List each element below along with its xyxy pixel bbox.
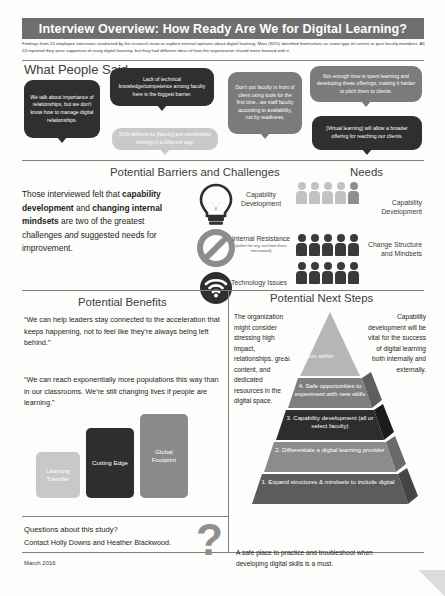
- divider-bottom-top: [22, 290, 424, 291]
- quote-bubble-4: Don't put faculty in front of client usi…: [228, 72, 302, 134]
- quote-bubble-6: [Virtual learning] will allow a broader …: [312, 116, 422, 150]
- divider-middle-top: [22, 160, 424, 161]
- quote-bubble-1-text: We talk about importance of relationship…: [30, 94, 94, 125]
- divider-vertical: [228, 290, 229, 552]
- section-title-needs: Needs: [350, 166, 383, 178]
- section-title-benefits: Potential Benefits: [78, 296, 167, 308]
- quote-bubble-5: Not enough time is spent learning and de…: [310, 66, 422, 102]
- quote-bubble-5-text: Not enough time is spent learning and de…: [316, 73, 416, 96]
- person-icon: [322, 262, 333, 284]
- barrier-label-technology: Technology Issues: [226, 278, 292, 287]
- benefit-quote-2: “We can reach exponentially more populat…: [24, 374, 220, 409]
- needs-label-change: Change Structure and Mindsets: [356, 240, 422, 259]
- person-icon: [335, 262, 346, 284]
- section-title-next-steps: Potential Next Steps: [270, 292, 373, 304]
- people-group-change: [296, 234, 359, 256]
- people-group-change-row2: [296, 262, 359, 284]
- bubble-tail-icon: [57, 137, 67, 143]
- needs-label-capability: Capability Development: [356, 198, 422, 217]
- quote-bubble-2-text: Lack of technical knowledge/competence a…: [116, 76, 208, 99]
- quote-bubble-6-text: [Virtual learning] will allow a broader …: [318, 125, 416, 140]
- infographic-page: Interview Overview: How Ready Are We for…: [0, 0, 445, 596]
- quote-bubble-4-text: Don't put faculty in front of client usi…: [234, 84, 296, 122]
- quote-bubble-1: We talk about importance of relationship…: [24, 80, 100, 138]
- barrier-sublabel-resistance: (within the org; not from those intervie…: [226, 243, 296, 253]
- next-steps-footer-note: A safe place to practice and troubleshoo…: [236, 548, 386, 569]
- barriers-para-part2: and: [74, 203, 93, 213]
- header-banner: Interview Overview: How Ready Are We for…: [22, 18, 424, 39]
- page-title: Interview Overview: How Ready Are We for…: [39, 22, 407, 36]
- person-icon: [335, 234, 346, 256]
- person-icon: [348, 262, 359, 284]
- bubble-tail-icon: [362, 149, 372, 155]
- barrier-label-resistance-text: Internal Resistance: [232, 235, 290, 242]
- pyramid-level-3: 3. Capability development (all or select…: [280, 414, 380, 430]
- pyramid-level-1: 1. Expand structures & mindsets to inclu…: [258, 478, 398, 486]
- benefit-bar-learning-transfer: Learning Transfer: [36, 452, 80, 498]
- header-subtitle: Findings from 24 employee interviews con…: [22, 41, 426, 55]
- pyramid-level-2: 2. Differentiate a digital learning prov…: [272, 446, 388, 454]
- person-icon: [309, 234, 320, 256]
- benefit-bar-label: Global Footprint: [143, 448, 185, 464]
- benefit-bar-label: Learning Transfer: [39, 467, 77, 483]
- person-icon: [296, 234, 307, 256]
- barrier-label-capability: Capability Development: [228, 190, 294, 208]
- person-icon: [309, 262, 320, 284]
- bubble-tail-icon: [160, 149, 170, 155]
- person-icon: [322, 234, 333, 256]
- divider-top: [22, 60, 424, 61]
- barriers-paragraph: Those interviewed felt that capability d…: [22, 188, 182, 256]
- page-corner-fold: [419, 570, 445, 596]
- person-icon: [296, 262, 307, 284]
- person-icon: [322, 182, 333, 204]
- benefit-bar-label: Cutting Edge: [92, 459, 128, 467]
- person-icon: [335, 182, 346, 204]
- person-icon: [309, 182, 320, 204]
- question-mark-icon: ?: [196, 518, 223, 562]
- benefit-quote-1: “We can help leaders stay connected to t…: [24, 314, 220, 349]
- footer-contact-line: Contact Holly Downs and Heather Blackwoo…: [24, 537, 194, 549]
- benefit-bar-global-footprint: Global Footprint: [140, 414, 188, 498]
- person-icon: [296, 182, 307, 204]
- bubble-tail-icon: [157, 105, 167, 111]
- barrier-label-resistance: Internal Resistance (within the org; not…: [226, 234, 296, 253]
- footer-question-line: Questions about this study?: [24, 524, 194, 537]
- bubble-tail-icon: [260, 133, 270, 139]
- footer-contact-block: Questions about this study? Contact Holl…: [24, 524, 194, 548]
- quote-bubble-3-text: Shift skillsets so [faculty] are comfort…: [118, 131, 212, 146]
- pyramid-level-5: 5. Learn from within: [276, 352, 338, 360]
- quote-bubble-2: Lack of technical knowledge/competence a…: [110, 68, 214, 106]
- barriers-para-italic1: and: [64, 230, 78, 240]
- footer-date: March 2016: [24, 560, 56, 566]
- people-group-capability: [296, 182, 359, 204]
- section-title-barriers: Potential Barriers and Challenges: [110, 166, 280, 178]
- barriers-para-part1: Those interviewed felt that: [22, 189, 122, 199]
- benefit-bar-cutting-edge: Cutting Edge: [86, 428, 134, 498]
- bubble-tail-icon: [361, 101, 371, 107]
- quote-bubble-3: Shift skillsets so [faculty] are comfort…: [112, 128, 218, 150]
- pyramid-level-4: 4. Safe opportunities to experiment with…: [290, 382, 370, 398]
